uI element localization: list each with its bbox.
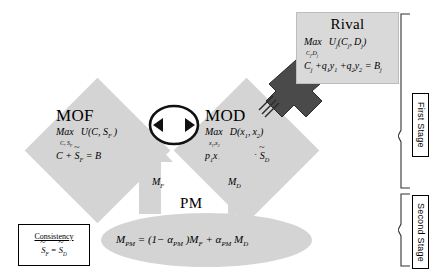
consistency-equation: SF = SD xyxy=(19,245,89,255)
rival-choice-vars: Cj,Dj xyxy=(306,50,398,56)
first-stage-text: First Stage xyxy=(416,102,426,148)
md-arrow-label: MD xyxy=(228,176,241,187)
second-stage-text: Second Stage xyxy=(416,203,426,262)
rival-title: Rival xyxy=(297,16,398,33)
rival-objective: MaxUj(Cj, Dj) xyxy=(304,36,398,47)
pm-title: PM xyxy=(176,195,206,212)
mf-up-arrow xyxy=(126,138,174,214)
mf-arrow-label: MF xyxy=(152,176,164,187)
first-stage-label: First Stage xyxy=(412,93,429,157)
diagram-canvas: MOF MaxU(C, SF ) C, SF C + SF = B MOD Ma… xyxy=(0,0,443,280)
rival-constraint: Cj +q1y1 +q2y2 = Bj xyxy=(304,60,398,71)
mod-objective: MaxD(x1, x2) xyxy=(205,127,325,138)
second-stage-label: Second Stage xyxy=(412,195,429,269)
rival-box: Rival MaxUj(Cj, Dj) Cj,Dj Cj +q1y1 +q2y2… xyxy=(296,12,399,84)
consistency-title: Consistency xyxy=(19,232,89,241)
consistency-box: Consistency SF = SD xyxy=(18,224,90,266)
pm-equation: MPM = (1− αPM )MF + αPM MD xyxy=(116,233,248,245)
